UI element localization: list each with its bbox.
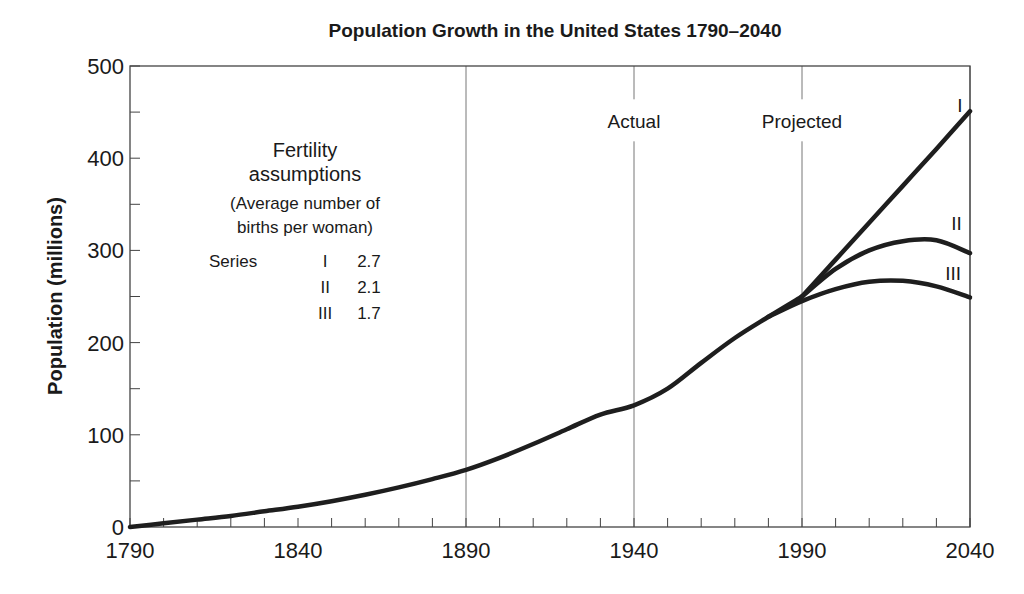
x-tick-label: 1890	[442, 538, 491, 563]
legend-row-label	[195, 278, 301, 304]
legend-row: Series I 2.7	[195, 252, 415, 278]
annotation-i: I	[957, 95, 962, 116]
y-tick-label: 400	[87, 146, 124, 171]
y-tick-label: 300	[87, 238, 124, 263]
legend-row-value: 1.7	[349, 304, 415, 330]
annotation-actual: Actual	[608, 111, 661, 132]
x-tick-label: 1840	[274, 538, 323, 563]
legend-row-series: II	[301, 278, 349, 304]
legend-table: Series I 2.7 II 2.1 III 1.7	[195, 252, 415, 330]
x-tick-label: 1790	[106, 538, 155, 563]
chart-plot: 1790184018901940199020400100200300400500…	[0, 0, 1024, 594]
y-tick-label: 100	[87, 423, 124, 448]
annotation-ii: II	[951, 213, 962, 234]
y-tick-label: 500	[87, 54, 124, 79]
legend-subtitle-line-2: births per woman)	[195, 216, 415, 240]
annotation-iii: III	[945, 263, 961, 284]
annotation-projected: Projected	[762, 111, 842, 132]
chart-annotations: ActualProjectedIIIIII	[608, 95, 963, 285]
legend-row-series: III	[301, 304, 349, 330]
legend-subtitle-line-1: (Average number of	[195, 192, 415, 216]
legend-row-value: 2.1	[349, 278, 415, 304]
vertical-gridlines	[466, 66, 970, 527]
fertility-legend: Fertility assumptions (Average number of…	[195, 138, 415, 330]
x-tick-label: 2040	[946, 538, 995, 563]
legend-title-line-1: Fertility	[195, 138, 415, 162]
legend-row-series: I	[301, 252, 349, 278]
legend-row: II 2.1	[195, 278, 415, 304]
legend-row-label	[195, 304, 301, 330]
legend-row-label: Series	[195, 252, 301, 278]
legend-row: III 1.7	[195, 304, 415, 330]
x-tick-label: 1940	[610, 538, 659, 563]
y-tick-label: 0	[112, 515, 124, 540]
y-tick-label: 200	[87, 331, 124, 356]
legend-row-value: 2.7	[349, 252, 415, 278]
legend-title-line-2: assumptions	[195, 162, 415, 186]
x-tick-label: 1990	[778, 538, 827, 563]
